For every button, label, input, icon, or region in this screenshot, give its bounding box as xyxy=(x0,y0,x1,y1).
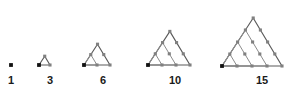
term-group-15 xyxy=(220,16,283,67)
lattice-dot xyxy=(160,63,163,66)
lattice-dot xyxy=(188,63,191,66)
anchor-dot xyxy=(9,63,13,67)
lattice-dot xyxy=(43,55,46,58)
figure-label-6: 6 xyxy=(100,74,106,87)
lattice-dot xyxy=(259,28,262,31)
lattice-dot xyxy=(182,52,185,55)
lattice-dot xyxy=(96,43,99,46)
triangular-numbers-figure: 1361015 xyxy=(0,0,306,94)
term-group-6 xyxy=(82,43,111,67)
term-group-10 xyxy=(146,30,191,67)
lattice-dot xyxy=(89,53,92,56)
lattice-dot xyxy=(258,52,261,55)
lattice-dot xyxy=(280,64,283,67)
anchor-dot xyxy=(146,63,150,67)
lattice-dot xyxy=(95,63,98,66)
lattice-dot xyxy=(228,52,231,55)
lattice-dot xyxy=(250,64,253,67)
lattice-dot xyxy=(251,40,254,43)
figure-label-10: 10 xyxy=(169,74,181,87)
edge-right xyxy=(91,55,97,65)
term-group-1 xyxy=(9,63,13,67)
term-group-3 xyxy=(37,55,51,67)
figure-label-15: 15 xyxy=(256,74,268,87)
anchor-dot xyxy=(220,64,224,68)
lattice-dot xyxy=(154,52,157,55)
anchor-dot xyxy=(82,63,86,67)
lattice-dot xyxy=(161,41,164,44)
lattice-dot xyxy=(102,53,105,56)
lattice-dot xyxy=(108,63,111,66)
lattice-dot xyxy=(244,28,247,31)
lattice-dot xyxy=(168,52,171,55)
edge-right xyxy=(230,54,237,66)
anchor-dot xyxy=(37,63,41,67)
lattice-dot xyxy=(236,40,239,43)
lattice-dot xyxy=(252,16,255,19)
lattice-dot xyxy=(174,63,177,66)
lattice-dot xyxy=(48,63,51,66)
lattice-dot xyxy=(265,64,268,67)
lattice-dot xyxy=(168,30,171,33)
lattice-dot xyxy=(266,40,269,43)
edge-right xyxy=(155,54,162,65)
lattice-dot xyxy=(243,52,246,55)
lattice-dot xyxy=(235,64,238,67)
figure-label-1: 1 xyxy=(8,74,14,87)
figure-label-3: 3 xyxy=(47,74,53,87)
lattice-dot xyxy=(273,52,276,55)
lattice-dot xyxy=(175,41,178,44)
